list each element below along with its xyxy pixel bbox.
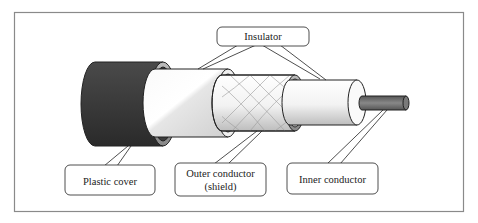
label-shield-text: (shield) [204, 181, 237, 193]
label-outer-conductor-text: Outer conductor [186, 168, 255, 179]
label-plastic-cover: Plastic cover [65, 165, 155, 195]
label-outer-conductor: Outer conductor (shield) [175, 163, 266, 196]
label-inner-conductor: Inner conductor [287, 163, 378, 194]
label-plastic-cover-text: Plastic cover [83, 176, 137, 187]
coaxial-cable-diagram: Insulator Plastic cover Outer conductor … [0, 0, 478, 223]
label-inner-conductor-text: Inner conductor [299, 174, 366, 185]
inner-insulator-layer [282, 80, 366, 125]
label-insulator: Insulator [217, 27, 309, 46]
inner-conductor-layer [359, 96, 409, 110]
label-insulator-text: Insulator [244, 31, 282, 42]
coaxial-cable [81, 62, 409, 146]
